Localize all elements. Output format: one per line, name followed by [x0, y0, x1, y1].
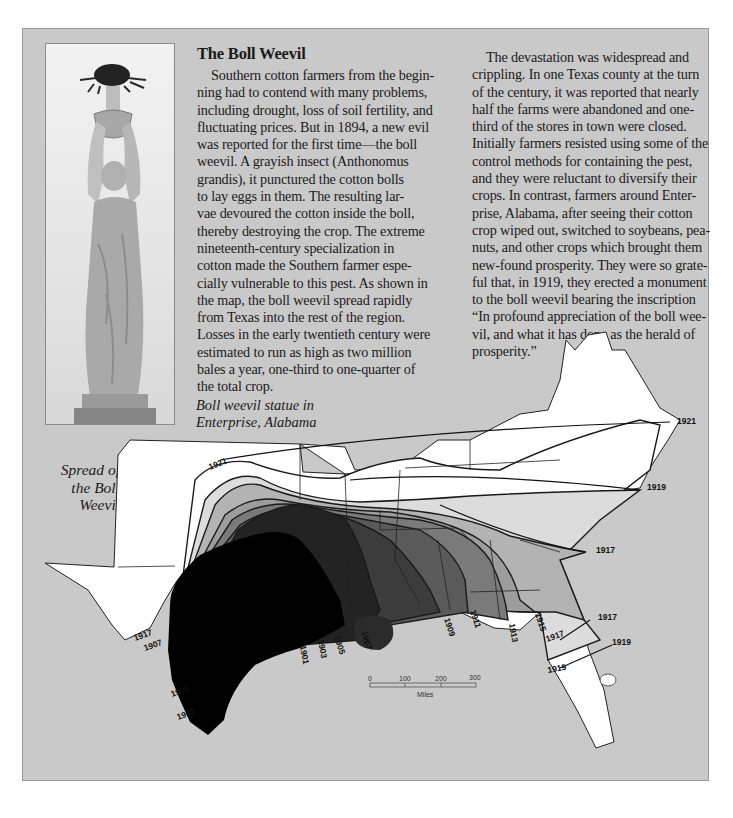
year-label: 1917 — [596, 545, 615, 555]
year-label: 1909 — [442, 617, 457, 638]
scale-unit-label: Miles — [417, 691, 434, 698]
scale-tick-label: 0 — [368, 675, 372, 682]
scale-tick-label: 200 — [435, 675, 447, 682]
year-label: 1917 — [598, 612, 617, 622]
scale-tick-label: 300 — [469, 674, 481, 681]
boll-weevil-spread-map: 1921 1921 1919 1917 1917 1919 1917 1919 … — [0, 0, 733, 818]
year-label: 1903 — [316, 639, 329, 660]
year-label: 1919 — [612, 637, 631, 647]
lake-okeechobee — [600, 674, 616, 686]
scale-bar: 0 100 200 300 Miles — [368, 674, 481, 698]
scale-tick-label: 100 — [399, 675, 411, 682]
year-label: 1907 — [142, 637, 163, 653]
year-label: 1919 — [647, 482, 666, 492]
year-label: 1913 — [507, 623, 520, 644]
year-label: 1921 — [677, 416, 696, 426]
year-label: 1901 — [298, 645, 311, 666]
